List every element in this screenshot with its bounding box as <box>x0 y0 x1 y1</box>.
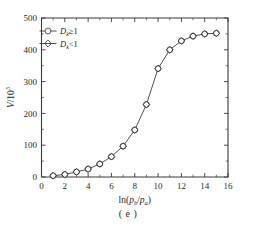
data-point-circle <box>97 161 103 167</box>
data-point-circle <box>120 143 126 149</box>
y-axis-title: V/103 <box>4 87 16 108</box>
data-point-circle <box>155 66 161 72</box>
data-point-circle <box>109 154 115 160</box>
x-tick-label: 14 <box>200 181 210 191</box>
series-line <box>53 33 216 175</box>
data-point-circle <box>144 102 150 108</box>
x-tick-label: 6 <box>109 181 114 191</box>
y-tick-label: 200 <box>24 109 38 119</box>
y-axis-tick-labels: 0100200300400500 <box>24 13 38 182</box>
x-tick-label: 16 <box>224 181 234 191</box>
chart-plot: 0246810121416 0100200300400500 Dk≥1Dk<1 … <box>0 0 256 233</box>
data-point-circle <box>190 33 196 39</box>
legend-entry-label: Dk≥1 <box>59 26 78 37</box>
data-point-circle <box>85 166 91 172</box>
data-point-circle <box>213 30 219 36</box>
figure-caption: ( e ) <box>0 208 256 219</box>
x-tick-label: 8 <box>133 181 138 191</box>
chart-legend: Dk≥1Dk<1 <box>40 26 78 50</box>
y-tick-label: 400 <box>24 45 38 55</box>
x-tick-label: 10 <box>154 181 164 191</box>
data-point-circle <box>62 172 68 178</box>
data-series-markers <box>50 30 220 179</box>
y-tick-label: 500 <box>24 13 38 23</box>
y-tick-label: 0 <box>33 172 38 182</box>
data-point-circle <box>202 31 208 37</box>
legend-marker-circle <box>45 28 51 34</box>
y-tick-label: 300 <box>24 77 38 87</box>
x-tick-label: 12 <box>177 181 186 191</box>
y-tick-label: 100 <box>24 140 38 150</box>
x-axis-title: ln(pb/pa) <box>119 195 151 206</box>
data-point-circle <box>167 47 173 53</box>
data-point-circle <box>74 169 80 175</box>
x-tick-label: 2 <box>63 181 68 191</box>
data-point-circle <box>178 38 184 44</box>
data-series-lines <box>53 33 216 175</box>
data-point-circle <box>50 173 56 179</box>
figure-container: 0246810121416 0100200300400500 Dk≥1Dk<1 … <box>0 0 256 233</box>
data-point-circle <box>132 127 138 133</box>
x-tick-label: 0 <box>39 181 44 191</box>
legend-entry-label: Dk<1 <box>59 39 78 50</box>
x-tick-label: 4 <box>86 181 91 191</box>
x-axis-tick-labels: 0246810121416 <box>39 181 233 191</box>
